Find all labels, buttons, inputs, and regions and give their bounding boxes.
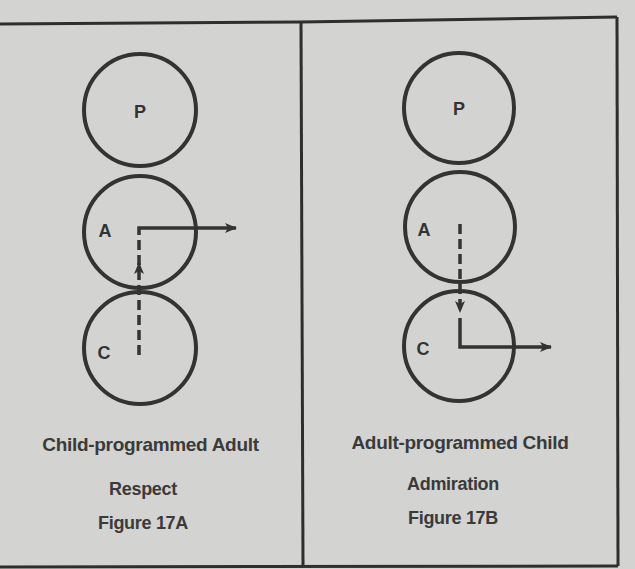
parent-circle-17b: P (404, 53, 514, 163)
figure-label-17b: Figure 17B (303, 508, 603, 529)
panel-17b-diagram: P A C (404, 53, 551, 401)
child-label: C (98, 343, 111, 363)
adult-label: A (418, 220, 431, 240)
caption-17a: Child-programmed Adult (0, 434, 301, 456)
subtitle-17a: Respect (0, 479, 286, 500)
solid-right-arrow (139, 228, 236, 229)
parent-circle-17a: P (84, 54, 196, 166)
parent-label: P (453, 99, 465, 119)
adult-label: A (99, 221, 112, 241)
caption-17b: Adult-programmed Child (303, 432, 617, 454)
parent-label: P (134, 102, 146, 122)
child-label: C (417, 339, 430, 359)
figure-label-17a: Figure 17A (0, 513, 286, 534)
panel-17a-diagram: P A C (84, 54, 236, 404)
solid-right-arrow (460, 318, 551, 347)
subtitle-17b: Admiration (303, 474, 603, 495)
